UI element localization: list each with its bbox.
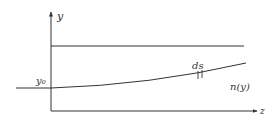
y0-label: y₀ — [35, 75, 46, 86]
refractive-index-label: n(y) — [230, 81, 250, 92]
diagram-canvas: y z y₀ ds n(y) — [0, 0, 275, 124]
y-axis-label: y — [56, 10, 64, 23]
ds-label: ds — [192, 60, 204, 71]
z-axis-label: z — [259, 106, 265, 116]
